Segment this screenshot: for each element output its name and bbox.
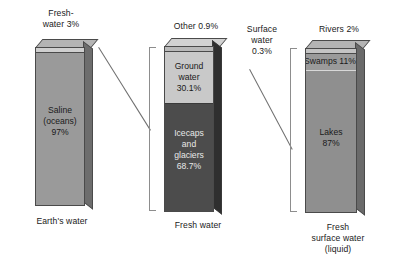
panel3-caption-line3: (liquid): [288, 244, 388, 255]
mid-callout-line1: Surface: [232, 24, 292, 35]
bar1-saline-label: Saline (oceans) 97%: [36, 105, 84, 138]
panel1-callout-line2: water 3%: [22, 19, 100, 30]
panel2-caption-text: Fresh water: [148, 220, 248, 231]
panel1-callout-line1: Fresh-: [22, 8, 100, 19]
bar2-front-face: Ground water 30.1% Icecaps and glaciers …: [164, 46, 214, 212]
bar1-front-face: Saline (oceans) 97%: [35, 47, 85, 206]
panel2-callout-other: Other 0.9%: [155, 21, 237, 32]
water-distribution-diagram: Fresh- water 3% Saline (oceans) 97% Eart…: [0, 0, 403, 269]
bar2-ground-line3: 30.1%: [165, 83, 213, 94]
bar1-saline-line3: 97%: [36, 127, 84, 138]
mid-callout-surface-water: Surface water 0.3%: [232, 24, 292, 57]
panel2-caption: Fresh water: [148, 220, 248, 231]
bar1-segment-saline: Saline (oceans) 97%: [36, 53, 84, 205]
bar2-ground-water-label: Ground water 30.1%: [165, 61, 213, 94]
bar-fresh-surface-water: Swamps 11% Lakes 87%: [305, 40, 377, 214]
panel3-caption-line2: surface water: [288, 233, 388, 244]
mid-callout-line3: 0.3%: [232, 46, 292, 57]
bar3-lakes-line1: Lakes: [306, 127, 356, 138]
bar1-saline-line1: Saline: [36, 105, 84, 116]
connector-line-2: [249, 69, 293, 150]
bar3-lakes-label: Lakes 87%: [306, 127, 356, 149]
bar-fresh-water: Ground water 30.1% Icecaps and glaciers …: [164, 38, 234, 213]
panel1-caption-text: Earth's water: [12, 216, 112, 227]
bar2-ground-line2: water: [165, 72, 213, 83]
panel3-caption: Fresh surface water (liquid): [288, 222, 388, 255]
mid-callout-line2: water: [232, 35, 292, 46]
bar2-icecaps-label: Icecaps and glaciers 68.7%: [165, 128, 213, 172]
bar3-segment-swamps: Swamps 11%: [306, 54, 356, 71]
bar2-ground-line1: Ground: [165, 61, 213, 72]
bracket-fresh-surface-water: [290, 48, 297, 212]
panel3-callout-rivers: Rivers 2%: [298, 24, 380, 35]
bar3-front-face: Swamps 11% Lakes 87%: [305, 48, 357, 213]
bar3-swamps-text: Swamps 11%: [306, 56, 356, 66]
panel3-caption-line1: Fresh: [288, 222, 388, 233]
bar3-segment-lakes: Lakes 87%: [306, 71, 356, 212]
bar2-segment-ground-water: Ground water 30.1%: [165, 52, 213, 104]
bar-earths-water: Saline (oceans) 97%: [35, 39, 101, 207]
panel2-callout-text: Other 0.9%: [155, 21, 237, 32]
bar1-saline-line2: (oceans): [36, 116, 84, 127]
bar2-ice-line2: and: [165, 139, 213, 150]
panel1-callout-freshwater: Fresh- water 3%: [22, 8, 100, 30]
panel3-callout-text: Rivers 2%: [298, 24, 380, 35]
bar3-lakes-line2: 87%: [306, 138, 356, 149]
bracket-fresh-water: [149, 47, 156, 211]
bar3-swamps-label: Swamps 11%: [306, 56, 356, 67]
bar2-ice-line4: 68.7%: [165, 161, 213, 172]
bar2-ice-line3: glaciers: [165, 150, 213, 161]
connector-line-1: [98, 47, 151, 131]
bar2-ice-line1: Icecaps: [165, 128, 213, 139]
bar2-segment-icecaps-glaciers: Icecaps and glaciers 68.7%: [165, 104, 213, 211]
panel1-caption: Earth's water: [12, 216, 112, 227]
